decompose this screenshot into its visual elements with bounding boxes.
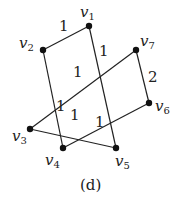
- weight-v1-v5: 1: [99, 42, 109, 60]
- figure-caption: (d): [80, 176, 101, 194]
- weight-v4-v6: 1: [95, 113, 105, 131]
- label-v2: v2: [19, 34, 34, 53]
- node-v2: [40, 47, 46, 53]
- label-v1: v1: [80, 3, 95, 22]
- node-v5: [113, 145, 119, 151]
- weight-v3-v5: 1: [70, 106, 80, 124]
- weight-v2-v4: 1: [56, 97, 66, 115]
- node-v7: [133, 47, 139, 53]
- edges: [30, 26, 149, 148]
- label-v7: v7: [140, 32, 155, 51]
- node-v6: [146, 100, 152, 106]
- graph-diagram: v1 v2 v3 v4 v5 v6 v7 1 1 1 1 2 1 1 (d): [0, 0, 175, 198]
- weight-v1-v2: 1: [59, 17, 69, 35]
- weight-v7-v6: 2: [148, 68, 158, 86]
- label-v4: v4: [45, 151, 60, 170]
- node-v1: [86, 23, 92, 29]
- label-v3: v3: [12, 127, 27, 146]
- node-v3: [27, 126, 33, 132]
- weight-v7-v3: 1: [73, 63, 83, 81]
- node-v4: [60, 145, 66, 151]
- label-v6: v6: [155, 97, 170, 116]
- label-v5: v5: [115, 152, 130, 171]
- edge-v3-v5: [30, 129, 116, 148]
